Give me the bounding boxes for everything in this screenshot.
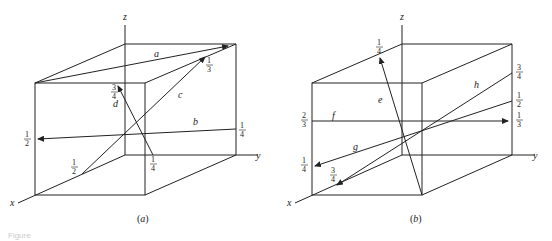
svg-text:4: 4 <box>112 92 116 101</box>
vector-d <box>118 86 153 155</box>
vector-h <box>337 73 512 185</box>
svg-text:2: 2 <box>302 111 306 120</box>
svg-text:3: 3 <box>331 166 335 175</box>
svg-text:g: g <box>353 141 358 152</box>
vector-c <box>82 57 205 174</box>
svg-text:2: 2 <box>72 167 76 176</box>
svg-text:1: 1 <box>302 156 306 165</box>
z-label-a: z <box>122 11 127 22</box>
svg-text:e: e <box>378 94 383 105</box>
panel-b-label: (b) <box>410 213 422 225</box>
figure-canvas: z y x a b c d 13 14 12 12 14 34 (a) z y … <box>0 0 552 241</box>
svg-text:f: f <box>332 110 336 121</box>
svg-text:4: 4 <box>331 175 335 184</box>
svg-text:2: 2 <box>25 139 29 148</box>
vector-b <box>38 129 236 139</box>
svg-text:1: 1 <box>207 56 211 65</box>
svg-text:4: 4 <box>240 130 244 139</box>
svg-text:a: a <box>154 48 159 59</box>
figure-caption: Figure <box>8 231 31 240</box>
svg-text:1: 1 <box>25 130 29 139</box>
svg-text:3: 3 <box>517 120 521 129</box>
vector-a <box>35 46 228 83</box>
panel-a-label: (a) <box>137 213 149 225</box>
panel-a-labels: z y x a b c d 13 14 12 12 14 34 (a) <box>9 11 261 225</box>
svg-text:4: 4 <box>151 164 155 173</box>
svg-text:b: b <box>193 116 198 127</box>
svg-text:y: y <box>532 150 538 161</box>
panel-b-labels: z y x e f g h 14 34 12 13 23 14 34 (b) <box>286 11 538 225</box>
svg-text:1: 1 <box>517 91 521 100</box>
svg-text:1: 1 <box>151 155 155 164</box>
svg-text:1: 1 <box>377 38 381 47</box>
svg-text:1: 1 <box>517 111 521 120</box>
panel-a <box>18 25 258 203</box>
y-label-a: y <box>255 150 261 161</box>
svg-text:z: z <box>399 11 404 22</box>
svg-text:3: 3 <box>302 120 306 129</box>
svg-text:3: 3 <box>112 83 116 92</box>
x-label-a: x <box>9 197 15 208</box>
vector-e <box>380 58 422 195</box>
svg-text:3: 3 <box>207 65 211 74</box>
svg-text:1: 1 <box>72 158 76 167</box>
svg-text:4: 4 <box>302 165 306 174</box>
svg-text:x: x <box>286 197 292 208</box>
svg-text:1: 1 <box>240 121 244 130</box>
svg-text:3: 3 <box>517 63 521 72</box>
svg-text:4: 4 <box>377 47 381 56</box>
vector-g <box>315 101 512 166</box>
svg-text:4: 4 <box>517 72 521 81</box>
svg-text:2: 2 <box>517 100 521 109</box>
svg-text:c: c <box>178 89 183 100</box>
svg-text:h: h <box>474 79 479 90</box>
